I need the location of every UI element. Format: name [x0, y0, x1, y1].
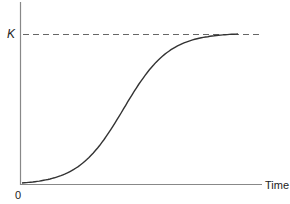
logistic-curve	[22, 34, 238, 183]
origin-label: 0	[15, 190, 21, 201]
x-axis-label: Time	[265, 180, 289, 191]
logistic-growth-chart	[0, 0, 290, 204]
k-label: K	[7, 28, 15, 40]
